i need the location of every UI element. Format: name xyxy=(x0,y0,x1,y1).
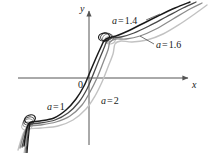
leader-a-1-6 xyxy=(140,36,154,44)
annotation-equals: = xyxy=(161,39,169,50)
y-axis-label: y xyxy=(80,4,84,14)
annotation-a-1-6: a=1.6 xyxy=(156,40,181,50)
annotation-equals: = xyxy=(52,101,60,112)
annotation-value: 1.4 xyxy=(125,15,138,26)
annotation-value: 1.6 xyxy=(169,39,182,50)
annotation-value: 1 xyxy=(60,101,65,112)
annotation-a-2: a=2 xyxy=(101,96,119,106)
annotation-equals: = xyxy=(117,15,125,26)
x-axis-label: x xyxy=(192,80,196,90)
annotation-a-1-4: a=1.4 xyxy=(112,16,137,26)
curve-1-4 xyxy=(22,2,196,147)
origin-label: 0 xyxy=(78,80,83,90)
curve-1-6 xyxy=(20,3,202,148)
figure-canvas: y x 0 a=1.4a=1.6a=1a=2 xyxy=(0,0,208,153)
annotation-a-1: a=1 xyxy=(47,102,65,112)
annotation-equals: = xyxy=(106,95,114,106)
curve-family-plot xyxy=(0,0,208,153)
annotation-value: 2 xyxy=(114,95,119,106)
